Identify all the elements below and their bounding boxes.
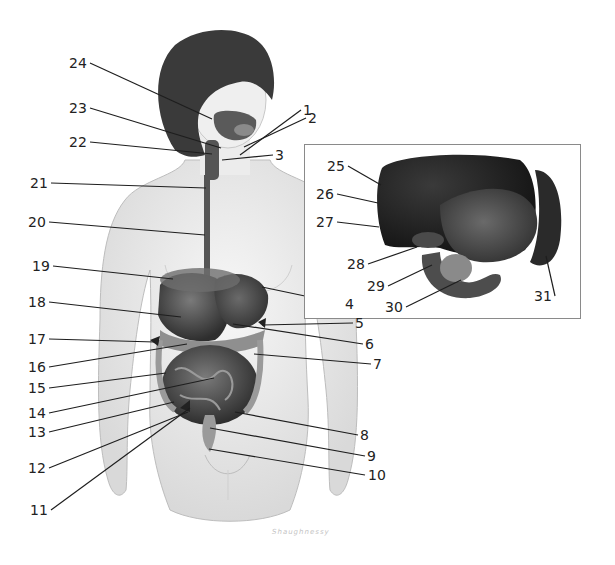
artist-signature: Shaughnessy bbox=[272, 528, 330, 536]
label-19: 19 bbox=[32, 259, 50, 273]
leader-line-29 bbox=[388, 265, 432, 286]
label-16: 16 bbox=[28, 360, 46, 374]
label-11: 11 bbox=[30, 503, 48, 517]
label-25: 25 bbox=[327, 159, 345, 173]
label-13: 13 bbox=[28, 425, 46, 439]
label-9: 9 bbox=[367, 449, 376, 463]
label-31: 31 bbox=[534, 289, 552, 303]
leader-line-25 bbox=[348, 166, 381, 185]
label-26: 26 bbox=[316, 187, 334, 201]
leader-line-26 bbox=[337, 194, 378, 203]
label-18: 18 bbox=[28, 295, 46, 309]
label-7: 7 bbox=[373, 357, 382, 371]
label-3: 3 bbox=[275, 148, 284, 162]
label-27: 27 bbox=[316, 215, 334, 229]
label-10: 10 bbox=[368, 468, 386, 482]
leader-line-28 bbox=[368, 247, 417, 264]
label-23: 23 bbox=[69, 101, 87, 115]
diagram-stage: 1234567891011121314151617181920212223242… bbox=[0, 0, 615, 565]
leader-line-27 bbox=[337, 222, 379, 227]
label-8: 8 bbox=[360, 428, 369, 442]
label-12: 12 bbox=[28, 461, 46, 475]
label-4: 4 bbox=[345, 297, 354, 311]
label-15: 15 bbox=[28, 381, 46, 395]
label-24: 24 bbox=[69, 56, 87, 70]
label-22: 22 bbox=[69, 135, 87, 149]
label-29: 29 bbox=[367, 279, 385, 293]
label-17: 17 bbox=[28, 332, 46, 346]
label-14: 14 bbox=[28, 406, 46, 420]
label-28: 28 bbox=[347, 257, 365, 271]
inset-illustration bbox=[0, 0, 615, 565]
label-2: 2 bbox=[308, 111, 317, 125]
label-21: 21 bbox=[30, 176, 48, 190]
label-6: 6 bbox=[365, 337, 374, 351]
label-30: 30 bbox=[385, 300, 403, 314]
label-5: 5 bbox=[355, 316, 364, 330]
label-20: 20 bbox=[28, 215, 46, 229]
